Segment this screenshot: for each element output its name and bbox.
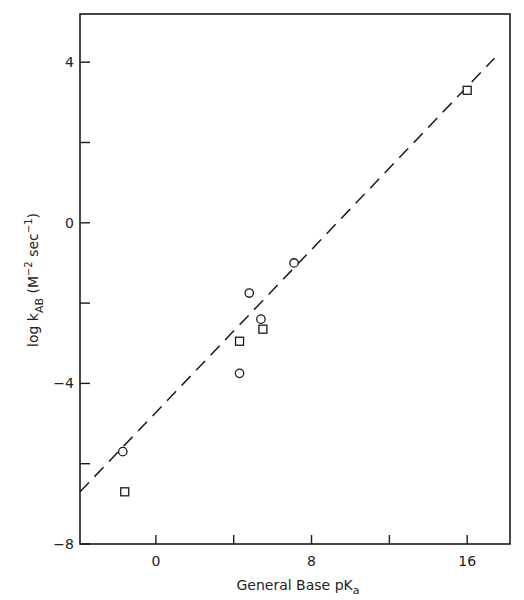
circle-marker (290, 259, 298, 267)
circle-marker (119, 447, 127, 455)
square-marker (121, 488, 129, 496)
square-marker (259, 325, 267, 333)
circle-marker (245, 289, 253, 297)
y-axis-title: log kAB (M−2 sec−1) (23, 213, 46, 347)
square-marker (236, 337, 244, 345)
x-axis-title: General Base pKa (237, 577, 360, 597)
x-tick-label: 8 (307, 553, 316, 569)
chart: 0816−8−404 General Base pKa log kAB (M−2… (0, 0, 524, 600)
dashed-fit-line (80, 58, 494, 492)
circle-marker (257, 315, 265, 323)
y-tick-label: 4 (65, 54, 74, 70)
x-tick-label: 16 (458, 553, 476, 569)
axis-ticks: 0816−8−404 (53, 54, 476, 569)
data-points (119, 86, 472, 496)
circle-marker (235, 369, 243, 377)
fit-line (80, 58, 494, 492)
y-tick-label: −4 (53, 375, 74, 391)
plot-frame (80, 14, 510, 544)
y-tick-label: 0 (65, 215, 74, 231)
y-tick-label: −8 (53, 536, 74, 552)
square-marker (463, 86, 471, 94)
x-tick-label: 0 (151, 553, 160, 569)
